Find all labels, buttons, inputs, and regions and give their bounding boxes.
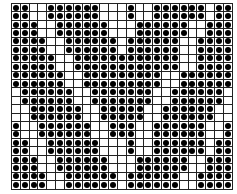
grid-cell [56,139,65,147]
grid-cell [109,4,118,12]
grid-cell [109,12,118,20]
grid-cell [206,80,215,88]
grid-cell [109,114,118,122]
dot-icon [163,157,169,163]
dot-icon [22,72,28,78]
dot-icon [128,123,134,129]
grid-cell [12,63,21,71]
grid-cell [83,46,92,54]
grid-cell [171,80,180,88]
dot-icon [48,114,54,120]
grid-cell [83,114,92,122]
dot-icon [31,38,37,44]
dot-icon [57,5,63,11]
dot-icon [163,106,169,112]
dot-icon [128,89,134,95]
dot-icon [128,13,134,19]
grid-cell [118,46,127,54]
grid-cell [74,164,83,172]
grid-cell [12,114,21,122]
grid-cell [206,21,215,29]
grid-cell [171,122,180,130]
dot-icon [137,173,143,179]
grid-cell [21,97,30,105]
dot-icon [181,131,187,137]
grid-cell [127,97,136,105]
grid-cell [47,181,56,189]
dot-icon [119,64,125,70]
dot-icon [207,64,213,70]
dot-icon [84,13,90,19]
grid-cell [21,46,30,54]
dot-icon [198,55,204,61]
grid-cell [100,21,109,29]
grid-cell [118,122,127,130]
grid-cell [215,131,224,139]
grid-cell [180,114,189,122]
grid-cell [38,63,47,71]
dot-icon [145,47,151,53]
dot-icon [22,182,28,188]
dot-icon [137,114,143,120]
dot-icon [48,72,54,78]
grid-cell [153,88,162,96]
dot-icon [101,173,107,179]
grid-cell [189,4,198,12]
dot-icon [145,38,151,44]
grid-cell [189,29,198,37]
grid-cell [180,88,189,96]
grid-cell [224,114,233,122]
grid-cell [91,63,100,71]
grid-cell [136,156,145,164]
grid-cell [12,97,21,105]
grid-cell [171,21,180,29]
dot-icon [75,131,81,137]
dot-icon [22,47,28,53]
grid-cell [65,139,74,147]
grid-cell [100,72,109,80]
grid-cell [91,156,100,164]
grid-cell [47,80,56,88]
grid-cell [109,46,118,54]
grid-cell [83,181,92,189]
dot-icon [48,106,54,112]
dot-icon [66,89,72,95]
grid-cell [12,139,21,147]
grid-cell [118,164,127,172]
grid-cell [30,29,39,37]
grid-cell [74,114,83,122]
grid-cell [109,80,118,88]
grid-cell [224,55,233,63]
dot-icon [172,22,178,28]
grid-cell [189,122,198,130]
grid-cell [171,156,180,164]
dot-icon [207,22,213,28]
grid-cell [197,80,206,88]
dot-icon [57,72,63,78]
dot-icon [57,131,63,137]
dot-icon [66,165,72,171]
grid-cell [189,55,198,63]
grid-cell [127,63,136,71]
grid-cell [38,156,47,164]
dot-icon [13,30,19,36]
dot-icon [189,148,195,154]
grid-cell [91,46,100,54]
dot-icon [172,140,178,146]
dot-icon [172,13,178,19]
dot-icon [181,165,187,171]
grid-cell [38,88,47,96]
grid-cell [144,147,153,155]
grid-cell [47,4,56,12]
grid-cell [38,29,47,37]
grid-cell [144,131,153,139]
dot-icon [119,89,125,95]
grid-cell [153,72,162,80]
dot-icon [154,38,160,44]
grid-cell [91,97,100,105]
dot-icon [172,38,178,44]
grid-cell [83,97,92,105]
grid-cell [74,131,83,139]
grid-cell [127,4,136,12]
dot-icon [189,123,195,129]
